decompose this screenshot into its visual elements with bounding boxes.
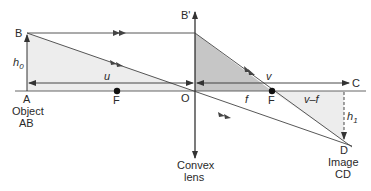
- label-F-right: F: [268, 94, 275, 106]
- label-A: A: [23, 93, 31, 105]
- label-v-minus-f: v–f: [304, 93, 320, 105]
- label-O: O: [181, 92, 190, 104]
- label-B-prime: B': [181, 9, 190, 21]
- label-v: v: [266, 70, 273, 82]
- label-h1: h1: [347, 110, 358, 125]
- caption-image-1: Image: [328, 156, 359, 168]
- label-h0: h0: [13, 56, 24, 71]
- label-u: u: [104, 70, 110, 82]
- label-F-left: F: [113, 94, 120, 106]
- caption-lens-2: lens: [184, 171, 205, 183]
- caption-lens-1: Convex: [177, 159, 215, 171]
- caption-object-1: Object: [12, 105, 44, 117]
- label-f: f: [245, 93, 249, 105]
- ray-diagram: B B' h0 u v C A F O f F v–f h1 D Object …: [0, 0, 371, 191]
- caption-image-2: CD: [335, 168, 351, 180]
- label-D: D: [340, 144, 348, 156]
- label-C: C: [352, 77, 360, 89]
- label-B: B: [15, 27, 22, 39]
- caption-object-2: AB: [19, 117, 34, 129]
